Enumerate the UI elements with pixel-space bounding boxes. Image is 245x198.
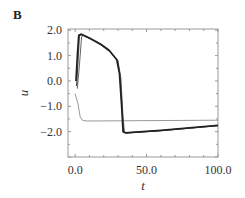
series-line-trajectory-3 — [77, 35, 218, 133]
y-tick-label: 1.0 — [47, 49, 62, 63]
x-tick-label: 50.0 — [136, 163, 157, 177]
y-tick-label: −2.0 — [40, 125, 62, 139]
y-tick-label: 0.0 — [47, 74, 62, 88]
panel-label: B — [13, 7, 22, 22]
axis-ticks — [68, 29, 218, 157]
series-layer — [75, 34, 218, 133]
x-tick-label: 0.0 — [68, 163, 83, 177]
chart: B 0.050.0100.02.01.00.0−1.0−2.0 t u — [0, 0, 245, 198]
y-tick-label: 2.0 — [47, 23, 62, 37]
plot-frame — [68, 29, 218, 157]
series-line-trajectory-2 — [77, 35, 218, 133]
series-line-trajectory-1 — [76, 34, 218, 133]
x-axis-label: t — [141, 178, 145, 193]
x-tick-label: 100.0 — [205, 163, 232, 177]
y-axis-label: u — [16, 89, 31, 96]
tick-labels: 0.050.0100.02.01.00.0−1.0−2.0 — [40, 23, 231, 177]
series-line-trajectory-resting — [75, 94, 218, 121]
y-tick-label: −1.0 — [40, 99, 62, 113]
